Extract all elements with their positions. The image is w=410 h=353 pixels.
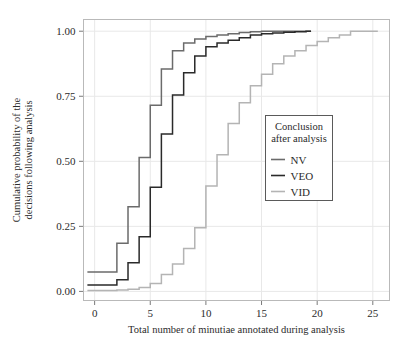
y-axis-title-line2: decisions following analysis — [23, 101, 34, 220]
y-tick-label: 0.50 — [56, 155, 76, 167]
y-tick-label: 1.00 — [56, 25, 76, 37]
x-tick-label: 25 — [367, 307, 379, 319]
x-tick-label: 10 — [200, 307, 212, 319]
ecdf-plot-svg: 0510152025 0.000.250.500.751.00 Total nu… — [0, 0, 410, 353]
plot-panel-background — [84, 20, 390, 301]
y-tick-label: 0.75 — [56, 90, 76, 102]
legend-title-line2: after analysis — [271, 133, 327, 144]
chart-figure: 0510152025 0.000.250.500.751.00 Total nu… — [0, 0, 410, 353]
x-tick-label: 5 — [148, 307, 154, 319]
legend-label: NV — [291, 154, 307, 166]
legend-entry-veo[interactable]: VEO — [270, 169, 314, 183]
y-axis-title: Cumulative probability of the decisions … — [11, 97, 34, 222]
x-tick-label: 15 — [256, 307, 268, 319]
y-tick-label: 0.25 — [56, 220, 76, 232]
x-tick-label: 20 — [312, 307, 324, 319]
legend-entry-vid[interactable]: VID — [270, 185, 311, 199]
y-axis-title-line1: Cumulative probability of the — [11, 97, 22, 222]
legend-label: VEO — [291, 170, 314, 182]
chart-legend[interactable]: Conclusion after analysis NVVEOVID — [266, 116, 333, 201]
y-tick-label: 0.00 — [56, 285, 76, 297]
x-axis-title: Total number of minutiae annotated durin… — [128, 324, 345, 335]
x-tick-label: 0 — [92, 307, 98, 319]
legend-title-line1: Conclusion — [275, 121, 324, 132]
legend-label: VID — [291, 186, 311, 198]
